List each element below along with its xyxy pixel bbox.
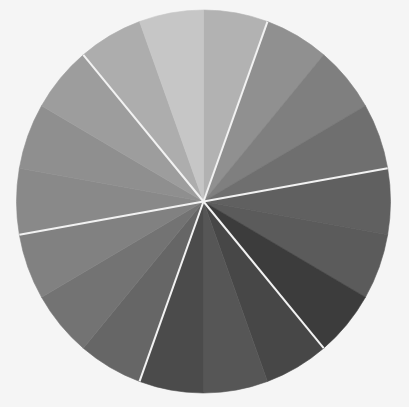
pie-chart <box>0 0 409 407</box>
pie-chart-canvas <box>0 0 409 407</box>
